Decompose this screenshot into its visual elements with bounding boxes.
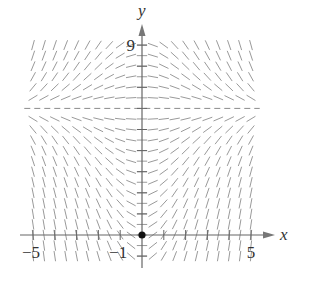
slope-segment: [250, 177, 252, 187]
slope-segment: [250, 209, 252, 219]
slope-segment: [75, 198, 78, 208]
slope-segment: [148, 129, 158, 130]
slope-segment: [104, 86, 114, 90]
slope-segment: [148, 191, 157, 196]
slope-segment: [105, 138, 114, 143]
slope-segment: [148, 87, 158, 88]
slope-segment: [247, 95, 256, 100]
slope-segment: [76, 240, 78, 250]
slope-segment: [205, 167, 209, 176]
slope-segment: [31, 156, 34, 166]
slope-segment: [42, 167, 45, 177]
slope-segment: [239, 251, 240, 261]
slope-segment: [228, 240, 230, 250]
slope-segment: [160, 169, 168, 175]
slope-segment: [74, 40, 78, 49]
slope-segment: [86, 198, 90, 208]
slope-segment: [217, 251, 219, 261]
slope-segment: [225, 117, 234, 122]
slope-segment: [31, 146, 35, 156]
slope-segment: [117, 200, 124, 208]
slope-segment: [237, 83, 244, 91]
slope-segment: [96, 199, 100, 208]
slope-segment: [227, 62, 232, 71]
slope-segment: [148, 76, 158, 78]
slope-segment: [116, 148, 125, 153]
slope-segment: [115, 118, 125, 119]
slope-segment: [85, 178, 89, 187]
slope-segment: [52, 72, 58, 81]
slope-segment: [148, 201, 157, 206]
slope-segment: [63, 62, 68, 71]
slope-segment: [216, 146, 221, 155]
slope-segment: [83, 85, 92, 90]
slope-segment: [127, 253, 135, 260]
slope-segment: [171, 158, 179, 165]
slope-segment: [97, 251, 100, 261]
slope-segment: [86, 209, 89, 219]
slope-segment: [248, 125, 255, 133]
slope-segment: [226, 136, 232, 145]
slope-segment: [52, 136, 58, 145]
slope-segment: [126, 65, 136, 67]
slope-segment: [30, 72, 35, 81]
slope-segment: [215, 136, 221, 144]
slope-segment: [203, 84, 211, 90]
slope-segment: [204, 146, 210, 155]
slope-segment: [182, 157, 189, 165]
slope-segment: [62, 73, 68, 81]
slope-segment: [75, 177, 79, 187]
slope-segment: [217, 219, 219, 229]
slope-segment: [249, 61, 253, 71]
slope-segment: [29, 95, 38, 100]
slope-segment: [238, 61, 242, 70]
slope-segment: [203, 126, 211, 132]
x-axis-label: x: [279, 225, 288, 244]
slope-segment: [182, 147, 189, 154]
slope-segment: [160, 189, 167, 196]
slope-segment: [171, 168, 178, 176]
slope-segment: [195, 241, 198, 251]
slope-segment: [41, 136, 46, 145]
slope-segment: [127, 201, 136, 206]
slope-segment: [65, 251, 67, 261]
slope-segment: [30, 135, 35, 144]
slope-segment: [65, 240, 67, 250]
slope-segment: [160, 210, 167, 218]
slope-segment: [94, 137, 102, 143]
slope-segment: [225, 84, 232, 91]
slope-segment: [228, 209, 230, 219]
slope-segment: [171, 178, 177, 186]
slope-segment: [203, 96, 213, 100]
slope-segment: [205, 157, 210, 166]
slope-segment: [62, 126, 70, 133]
slope-segment: [182, 63, 189, 70]
slope-segment: [170, 118, 180, 120]
slope-segment: [184, 251, 187, 261]
slope-segment: [250, 219, 252, 229]
slope-segment: [95, 157, 102, 165]
slope-segment: [194, 157, 200, 166]
slope-segment: [237, 72, 242, 81]
slope-segment: [116, 158, 125, 163]
slope-segment: [148, 180, 158, 184]
slope-segment: [171, 41, 178, 49]
slope-segment: [30, 125, 37, 133]
slope-segment: [193, 147, 200, 155]
slope-segment: [239, 240, 240, 250]
slope-segment: [74, 167, 78, 176]
slope-segment: [74, 146, 80, 155]
slope-segment: [54, 240, 56, 250]
slope-segment: [205, 40, 209, 49]
slope-segment: [30, 83, 37, 91]
slope-segment: [181, 85, 190, 90]
slope-segment: [184, 209, 188, 219]
slope-segment: [206, 251, 208, 261]
slope-segment: [170, 74, 179, 79]
slope-segment: [42, 61, 46, 70]
slope-segment: [126, 170, 136, 174]
slope-segment: [97, 241, 100, 251]
slope-segment: [216, 167, 220, 177]
slope-segment: [204, 62, 210, 71]
slope-segment: [238, 51, 242, 61]
